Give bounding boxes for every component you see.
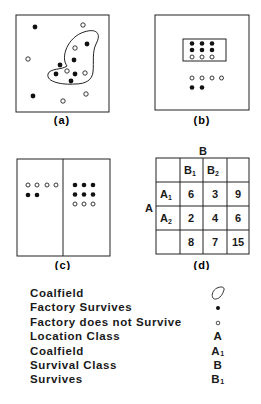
factory-survives-dots (31, 25, 90, 99)
col-b2: B2 (207, 164, 219, 177)
panel-a: (a) (0, 0, 130, 130)
legend-item-factory-not-survive: Factory does not Survive (30, 315, 250, 329)
panel-d-label: (d) (193, 259, 210, 270)
legend-item-factory-survives: Factory Survives (30, 300, 250, 314)
factory-not-survive-dots (26, 23, 88, 103)
legend: Coalfield Factory Survives Factory does … (30, 286, 250, 387)
legend-item-location-class: Location Class A (30, 329, 250, 343)
col-b1: B1 (184, 164, 196, 177)
cell: 2 (188, 212, 194, 224)
legend-item-coalfield: Coalfield (30, 286, 250, 300)
cell: 4 (212, 212, 219, 224)
legend-item-survives: Survives B1 (30, 372, 250, 386)
cell: 9 (235, 188, 241, 200)
cell: 6 (188, 188, 194, 200)
cell: 15 (232, 236, 244, 248)
row-a1: A1 (160, 188, 172, 201)
col-header-b: B (199, 145, 207, 157)
legend-item-survival-class: Survival Class B (30, 358, 250, 372)
row-a2: A2 (160, 212, 172, 225)
legend-item-coalfield-a1: Coalfield A1 (30, 344, 250, 358)
row-header-a: A (145, 202, 153, 214)
panel-c-label: (c) (55, 259, 71, 270)
panel-d: B A B1 B2 A1 A2 6 3 9 2 4 6 8 7 15 (d) (120, 130, 261, 270)
panel-b: (b) (130, 0, 261, 130)
cell: 6 (235, 212, 241, 224)
panel-b-label: (b) (193, 114, 210, 126)
cell: 8 (188, 236, 194, 248)
cell: 3 (212, 188, 218, 200)
cell: 7 (212, 236, 218, 248)
panel-a-label: (a) (54, 114, 70, 126)
panel-c: (c) (0, 130, 130, 270)
